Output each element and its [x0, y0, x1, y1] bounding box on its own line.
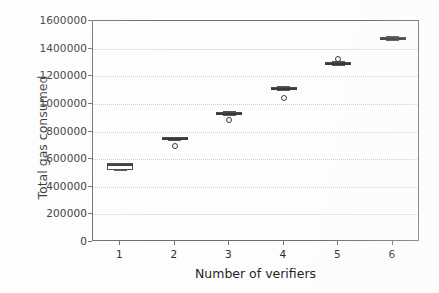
x-tick-label: 5: [334, 248, 341, 260]
gridline: [93, 104, 418, 105]
y-tick-label: 600000: [46, 152, 87, 164]
x-tick-label: 4: [279, 248, 286, 260]
x-tick-mark: [228, 241, 229, 245]
median-line: [325, 63, 351, 65]
x-tick-label: 3: [225, 248, 232, 260]
plot-area: [92, 20, 419, 241]
y-tick-label: 400000: [46, 180, 87, 192]
gridline: [93, 132, 418, 133]
median-line: [380, 38, 406, 40]
outlier-marker: [172, 143, 178, 149]
gridline: [93, 76, 418, 77]
x-tick-label: 6: [388, 248, 395, 260]
x-tick-label: 2: [170, 248, 177, 260]
y-tick-label: 1400000: [40, 42, 87, 54]
gridline: [93, 187, 418, 188]
median-line: [107, 164, 133, 166]
whisker-cap: [223, 115, 236, 116]
x-tick-mark: [119, 241, 120, 245]
x-tick-mark: [283, 241, 284, 245]
outlier-marker: [226, 117, 232, 123]
x-tick-label: 1: [116, 248, 123, 260]
gridline: [93, 214, 418, 215]
x-axis-title: Number of verifiers: [92, 266, 419, 281]
y-tick-label: 200000: [46, 207, 87, 219]
x-tick-mark: [174, 241, 175, 245]
median-line: [216, 113, 242, 115]
outlier-marker: [281, 95, 287, 101]
gridline: [93, 49, 418, 50]
y-tick-label: 1200000: [40, 69, 87, 81]
y-tick-label: 0: [80, 235, 87, 247]
median-line: [162, 138, 188, 140]
whisker-cap: [332, 65, 345, 66]
y-tick-mark: [88, 241, 92, 242]
gridline: [93, 159, 418, 160]
x-tick-mark: [392, 241, 393, 245]
whisker-cap: [114, 170, 127, 171]
x-tick-mark: [337, 241, 338, 245]
whisker-cap: [277, 90, 290, 91]
outlier-marker: [335, 56, 341, 62]
whisker-cap: [386, 40, 399, 41]
y-tick-label: 1000000: [40, 97, 87, 109]
y-tick-label: 1600000: [40, 14, 87, 26]
boxplot-figure: Total gas consumed 020000040000060000080…: [0, 0, 439, 293]
median-line: [271, 88, 297, 90]
y-tick-label: 800000: [46, 125, 87, 137]
